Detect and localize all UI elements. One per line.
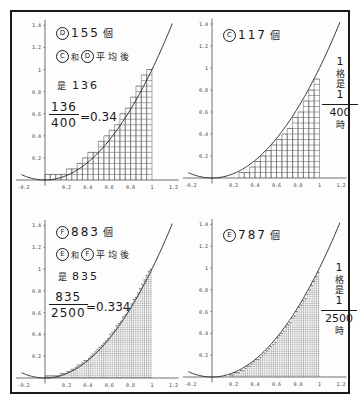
svg-text:0.6: 0.6 xyxy=(272,381,281,387)
svg-text:0.6: 0.6 xyxy=(199,309,208,315)
count-label-e: E787個 xyxy=(223,229,280,242)
fraction-bar xyxy=(321,310,357,311)
svg-text:0.2: 0.2 xyxy=(229,381,238,387)
chart-lower-grid-2500: -0.20.20.40.60.811.20.20.40.60.811.21.4 xyxy=(0,0,359,408)
svg-text:0.8: 0.8 xyxy=(199,287,208,293)
cell-size-note: 1 格 是 1 2500 時 xyxy=(321,262,357,336)
svg-text:0.4: 0.4 xyxy=(199,330,208,336)
svg-text:1.4: 1.4 xyxy=(199,221,208,227)
svg-text:1.2: 1.2 xyxy=(336,381,345,387)
grid-cells xyxy=(229,272,319,377)
svg-text:-0.2: -0.2 xyxy=(184,381,196,387)
svg-text:0.2: 0.2 xyxy=(199,352,208,358)
svg-text:1: 1 xyxy=(205,265,208,271)
svg-text:1: 1 xyxy=(318,381,321,387)
svg-text:0.4: 0.4 xyxy=(250,381,259,387)
svg-text:1.2: 1.2 xyxy=(199,243,208,249)
panel-bottom-right: -0.20.20.40.60.811.20.20.40.60.811.21.4 … xyxy=(0,0,359,408)
svg-text:0.8: 0.8 xyxy=(293,381,302,387)
